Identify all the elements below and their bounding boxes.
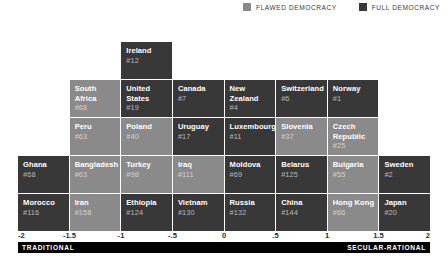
axis-tick-label: .5 bbox=[272, 231, 278, 240]
heatmap-cell[interactable]: Iran#158 bbox=[70, 194, 121, 231]
heatmap-cell[interactable]: China#144 bbox=[276, 194, 327, 231]
heatmap-cell[interactable]: Moldova#69 bbox=[225, 156, 276, 193]
heatmap-cell[interactable]: Japan#20 bbox=[379, 194, 430, 231]
axis-tick-label: 1 bbox=[325, 231, 329, 240]
heatmap-cell[interactable]: Uruguay#17 bbox=[173, 118, 224, 155]
axis-tick-label: 2 bbox=[426, 231, 430, 240]
heatmap-cell[interactable]: Slovenia#37 bbox=[276, 118, 327, 155]
country-name: Moldova bbox=[230, 160, 272, 170]
heatmap-cell-empty bbox=[18, 118, 69, 155]
country-rank: #98 bbox=[126, 170, 168, 180]
heatmap-cell[interactable]: Hong Kong#66 bbox=[328, 194, 379, 231]
country-rank: #2 bbox=[384, 170, 426, 180]
country-name: Iran bbox=[75, 198, 117, 208]
heatmap-cell[interactable]: South Africa#68 bbox=[70, 80, 121, 117]
axis-tick-label: -2 bbox=[18, 231, 25, 240]
country-rank: #55 bbox=[333, 170, 375, 180]
heatmap-cell-empty bbox=[173, 42, 224, 79]
heatmap-cell[interactable]: Iraq#111 bbox=[173, 156, 224, 193]
country-rank: #4 bbox=[230, 103, 272, 113]
heatmap-cell-empty bbox=[225, 42, 276, 79]
heatmap-cell[interactable]: Ireland#12 bbox=[121, 42, 172, 79]
heatmap-cell[interactable]: Sweden#2 bbox=[379, 156, 430, 193]
country-name: Sweden bbox=[384, 160, 426, 170]
heatmap-cell[interactable]: Luxembourg#11 bbox=[225, 118, 276, 155]
heatmap-cell[interactable]: Bulgaria#55 bbox=[328, 156, 379, 193]
x-axis: -2-1.5-1-.50.511.52 TRADITIONAL SECULAR-… bbox=[18, 231, 430, 253]
heatmap-cell-empty bbox=[328, 42, 379, 79]
heatmap-cell[interactable]: Canada#7 bbox=[173, 80, 224, 117]
x-axis-bar: TRADITIONAL SECULAR-RATIONAL bbox=[18, 242, 430, 253]
country-rank: #11 bbox=[230, 132, 272, 142]
country-name: Morocco bbox=[23, 198, 65, 208]
heatmap-cell[interactable]: New Zealand#4 bbox=[225, 80, 276, 117]
country-rank: #132 bbox=[230, 208, 272, 218]
country-name: Ghana bbox=[23, 160, 65, 170]
country-rank: #124 bbox=[126, 208, 168, 218]
country-name: Czech Republic bbox=[333, 122, 375, 141]
heatmap-grid: Ireland#12South Africa#68United States#1… bbox=[18, 42, 430, 231]
heatmap-cell[interactable]: Czech Republic#25 bbox=[328, 118, 379, 155]
country-rank: #116 bbox=[23, 208, 65, 218]
country-name: New Zealand bbox=[230, 84, 272, 103]
heatmap-cell[interactable]: Poland#40 bbox=[121, 118, 172, 155]
heatmap-cell[interactable]: Russia#132 bbox=[225, 194, 276, 231]
square-swatch-icon bbox=[243, 3, 251, 11]
country-rank: #12 bbox=[126, 56, 168, 66]
legend-item-flawed-democracy: FLAWED DEMOCRACY bbox=[243, 3, 337, 11]
heatmap-cell[interactable]: Peru#63 bbox=[70, 118, 121, 155]
heatmap-cell[interactable]: Turkey#98 bbox=[121, 156, 172, 193]
axis-tick-label: -1 bbox=[118, 231, 125, 240]
country-rank: #111 bbox=[178, 170, 220, 180]
country-name: China bbox=[281, 198, 323, 208]
country-name: Belarus bbox=[281, 160, 323, 170]
heatmap-cell[interactable]: United States#19 bbox=[121, 80, 172, 117]
heatmap-cell[interactable]: Ghana#68 bbox=[18, 156, 69, 193]
legend: FLAWED DEMOCRACY FULL DEMOCRACY bbox=[243, 3, 440, 11]
country-rank: #63 bbox=[75, 132, 117, 142]
axis-tick-label: 1.5 bbox=[373, 231, 384, 240]
country-rank: #130 bbox=[178, 208, 220, 218]
country-rank: #69 bbox=[230, 170, 272, 180]
legend-label: FULL DEMOCRACY bbox=[372, 4, 440, 11]
country-name: Bulgaria bbox=[333, 160, 375, 170]
heatmap-cell-empty bbox=[379, 80, 430, 117]
heatmap-cell[interactable]: Switzerland#6 bbox=[276, 80, 327, 117]
heatmap-cell[interactable]: Norway#1 bbox=[328, 80, 379, 117]
chart-plot-area: Ireland#12South Africa#68United States#1… bbox=[18, 42, 430, 231]
country-rank: #40 bbox=[126, 132, 168, 142]
heatmap-cell[interactable]: Morocco#116 bbox=[18, 194, 69, 231]
country-rank: #17 bbox=[178, 132, 220, 142]
heatmap-cell-empty bbox=[70, 42, 121, 79]
country-rank: #19 bbox=[126, 103, 168, 113]
heatmap-cell[interactable]: Vietnam#130 bbox=[173, 194, 224, 231]
country-name: Vietnam bbox=[178, 198, 220, 208]
axis-tick-label: -1.5 bbox=[63, 231, 76, 240]
country-name: Iraq bbox=[178, 160, 220, 170]
heatmap-cell-empty bbox=[379, 42, 430, 79]
country-rank: #6 bbox=[281, 94, 323, 104]
heatmap-cell[interactable]: Ethiopia#124 bbox=[121, 194, 172, 231]
legend-item-full-democracy: FULL DEMOCRACY bbox=[359, 3, 440, 11]
heatmap-cell[interactable]: Belarus#125 bbox=[276, 156, 327, 193]
country-name: South Africa bbox=[75, 84, 117, 103]
country-name: Peru bbox=[75, 122, 117, 132]
country-name: Slovenia bbox=[281, 122, 323, 132]
legend-label: FLAWED DEMOCRACY bbox=[256, 4, 337, 11]
country-rank: #68 bbox=[75, 103, 117, 113]
heatmap-cell-empty bbox=[276, 42, 327, 79]
axis-label-traditional: TRADITIONAL bbox=[22, 244, 74, 251]
country-name: Uruguay bbox=[178, 122, 220, 132]
country-rank: #144 bbox=[281, 208, 323, 218]
country-name: Turkey bbox=[126, 160, 168, 170]
axis-tick-label: -.5 bbox=[168, 231, 177, 240]
axis-label-secular-rational: SECULAR-RATIONAL bbox=[347, 244, 426, 251]
square-swatch-icon bbox=[359, 3, 367, 11]
heatmap-cell[interactable]: Bangladesh#63 bbox=[70, 156, 121, 193]
country-rank: #158 bbox=[75, 208, 117, 218]
country-rank: #20 bbox=[384, 208, 426, 218]
country-name: Ireland bbox=[126, 46, 168, 56]
country-name: Luxembourg bbox=[230, 122, 272, 132]
country-name: Canada bbox=[178, 84, 220, 94]
country-rank: #1 bbox=[333, 94, 375, 104]
